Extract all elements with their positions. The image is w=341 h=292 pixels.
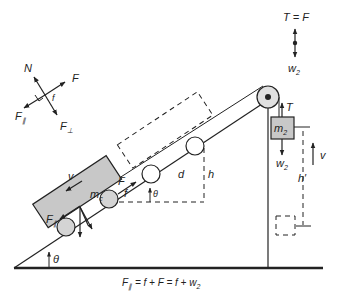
- dashed-cart-wheel-2: [186, 137, 204, 155]
- force-equation: F∥ = f + F = f + w2: [122, 277, 200, 291]
- fbd-Fpar-arrow: [24, 95, 45, 108]
- v-label-m2: v: [320, 149, 327, 161]
- cart-wheel-front: [100, 190, 118, 208]
- h-prime-label: h′: [298, 172, 307, 184]
- dashed-cart-wheel-1: [142, 165, 160, 183]
- fbd-Fperp-label: F⊥: [60, 120, 73, 134]
- h-label: h: [208, 168, 214, 180]
- fbd-N-arrow: [34, 77, 45, 95]
- free-body-diagram-right: T = F w2: [283, 11, 310, 76]
- m2-initial-position: [276, 216, 295, 235]
- fbd-N-label: N: [24, 62, 32, 74]
- fbd-w2-label: w2: [288, 62, 300, 76]
- fbd-Fperp-arrow: [45, 95, 57, 115]
- incline-pulley-diagram: m2 T w2 h′ v d h θ mc F∥ F f v θ: [0, 0, 341, 292]
- fbd-Fpar-label: F∥: [15, 110, 26, 125]
- pulley-axle: [265, 94, 271, 100]
- w2-label: w2: [276, 157, 288, 171]
- cart-wheel-back: [57, 218, 75, 236]
- cart-later-position: [117, 92, 213, 168]
- d-label: d: [178, 168, 185, 180]
- fbd-F-label: F: [72, 72, 80, 84]
- fbd-point-mass: [293, 41, 297, 45]
- tension-label: T: [286, 101, 294, 113]
- incline-surface: [14, 104, 262, 268]
- free-body-diagram-left: N F f F∥ F⊥: [15, 62, 80, 134]
- theta-small-label: θ: [153, 189, 158, 199]
- fbd-T-equals-F-label: T = F: [283, 11, 310, 23]
- fbd-f-label: f: [52, 93, 56, 103]
- theta-label: θ: [53, 253, 59, 265]
- fbd-F-arrow: [45, 82, 65, 95]
- cart-F-label: F: [118, 175, 126, 187]
